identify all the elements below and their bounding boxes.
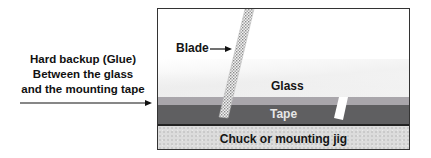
- annotation-line-2: Between the glass: [14, 67, 152, 82]
- blade-label: Blade: [176, 41, 209, 55]
- glue-pointer-arrow-icon: [20, 100, 152, 106]
- glass-label: Glass: [271, 79, 304, 93]
- hard-backup-annotation: Hard backup (Glue) Between the glass and…: [14, 52, 152, 97]
- annotation-line-3: and the mounting tape: [14, 82, 152, 97]
- blade-pointer-arrow-icon: [210, 45, 232, 53]
- cross-section-diagram: Tape Chuck or mounting jig Glass Blade: [157, 8, 410, 150]
- annotation-line-1: Hard backup (Glue): [14, 52, 152, 67]
